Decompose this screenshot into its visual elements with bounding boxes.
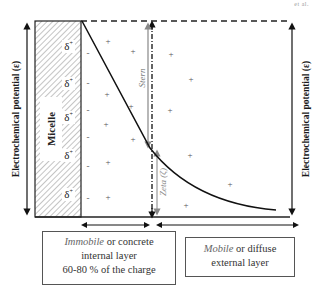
positive-ion: + (105, 37, 110, 46)
positive-ion: + (227, 180, 232, 189)
negative-ion: - (87, 79, 90, 88)
positive-ion: + (167, 106, 172, 115)
surface-charge: δ+ (62, 149, 75, 162)
negative-ion: - (87, 133, 90, 142)
left-axis-label: Electrochemical potential (ε) (11, 61, 21, 177)
positive-ion: + (168, 50, 173, 59)
immobile-layer-box: Immobile or concrete internal layer 60-8… (42, 231, 176, 285)
negative-ion: - (87, 49, 90, 58)
positive-ion: + (187, 151, 192, 160)
immobile-line2: internal layer (43, 249, 175, 263)
immobile-line3: 60-80 % of the charge (43, 263, 175, 277)
micelle-label: Micelle (45, 112, 57, 146)
right-axis-label: Electrochemical potential (ε) (301, 61, 311, 177)
surface-charge: δ+ (62, 111, 75, 124)
negative-ion: - (87, 162, 90, 171)
positive-ion: + (128, 102, 133, 111)
positive-ion: + (105, 193, 110, 202)
positive-ion: + (105, 158, 110, 167)
mobile-line2: external layer (186, 256, 294, 270)
potential-curve (82, 21, 276, 210)
surface-charge: δ+ (62, 188, 75, 201)
negative-ion: - (87, 106, 90, 115)
positive-ion: + (130, 135, 135, 144)
surface-charge: δ+ (62, 77, 75, 90)
positive-ion: + (183, 201, 188, 210)
mobile-line1: Mobile or diffuse (186, 242, 294, 256)
positive-ion: + (188, 75, 193, 84)
surface-charge: δ+ (62, 40, 75, 53)
stern-label: Stern (137, 69, 147, 88)
positive-ion: + (130, 47, 135, 56)
negative-ion: - (87, 194, 90, 203)
zeta-label: Zeta (ζ) (158, 168, 168, 196)
positive-ion: + (104, 90, 109, 99)
positive-ion: + (103, 120, 108, 129)
mobile-layer-box: Mobile or diffuse external layer (185, 237, 295, 277)
immobile-line1: Immobile or concrete (43, 235, 175, 249)
